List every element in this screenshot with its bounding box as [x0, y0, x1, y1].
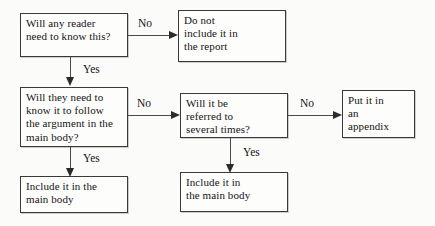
edge-q1-q2-line	[70, 57, 71, 78]
edge-q2-q3-arrowhead	[171, 111, 180, 119]
node-a1: Do not include it in the report	[178, 10, 286, 62]
edge-q3-a2-arrowhead	[333, 111, 342, 119]
edge-q1-a1-arrowhead	[169, 31, 178, 39]
node-a3: Include it in the main body	[20, 176, 128, 213]
node-a1-label: Do not include it in the report	[184, 14, 283, 54]
node-q3: Will it be referred to several times?	[180, 93, 288, 138]
flowchart-canvas: Will any reader need to know this? Do no…	[0, 0, 435, 226]
node-a2: Put it in an appendix	[342, 90, 415, 138]
node-a4: Include it in the main body	[180, 172, 288, 212]
node-q1-label: Will any reader need to know this?	[26, 17, 125, 43]
edge-label-q2-q3: No	[137, 97, 151, 109]
node-q3-label: Will it be referred to several times?	[186, 97, 285, 137]
edge-q2-q3-line	[128, 115, 172, 116]
edge-q1-a1-line	[128, 35, 170, 36]
node-q2: Will they need to know it to follow the …	[20, 87, 128, 147]
edge-q3-a4-line	[230, 138, 231, 165]
edge-q2-a3-line	[70, 147, 71, 169]
edge-label-q1-q2: Yes	[83, 63, 100, 75]
edge-q3-a2-line	[288, 115, 334, 116]
node-a3-label: Include it in the main body	[26, 180, 125, 206]
edge-label-q1-a1: No	[138, 17, 152, 29]
node-a2-label: Put it in an appendix	[348, 94, 412, 134]
node-a4-label: Include it in the main body	[186, 176, 285, 202]
edge-label-q3-a4: Yes	[243, 146, 260, 158]
edge-label-q3-a2: No	[300, 97, 314, 109]
node-q2-label: Will they need to know it to follow the …	[26, 91, 125, 144]
node-q1: Will any reader need to know this?	[20, 13, 128, 57]
edge-label-q2-a3: Yes	[83, 152, 100, 164]
edge-q1-q2-arrowhead	[66, 77, 74, 86]
